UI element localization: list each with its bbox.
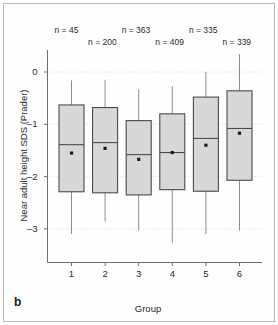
box-plot-group bbox=[59, 80, 84, 234]
mean-marker bbox=[70, 151, 73, 154]
sample-size-label: n = 339 bbox=[223, 37, 252, 47]
boxplot-series bbox=[59, 54, 252, 243]
x-tick-label: 1 bbox=[62, 268, 82, 279]
sample-size-label: n = 200 bbox=[88, 37, 117, 47]
x-tick-label: 5 bbox=[196, 268, 216, 279]
mean-marker bbox=[204, 144, 207, 147]
mean-marker bbox=[137, 158, 140, 161]
mean-marker bbox=[171, 151, 174, 154]
box-plot-group bbox=[160, 86, 185, 243]
box-rect bbox=[93, 108, 118, 193]
x-axis-title: Group bbox=[48, 303, 248, 314]
box-plot-group bbox=[126, 89, 151, 230]
plot-area: 0 –1 –2 –3 1 2 3 4 5 6 n = 45 n = 200 n … bbox=[0, 0, 278, 325]
sample-size-label: n = 409 bbox=[155, 37, 184, 47]
box-rect bbox=[227, 91, 252, 180]
box-plot-group bbox=[193, 72, 218, 234]
mean-marker bbox=[238, 132, 241, 135]
sample-size-label: n = 45 bbox=[55, 25, 79, 35]
x-tick-label: 6 bbox=[230, 268, 250, 279]
x-tick-label: 3 bbox=[129, 268, 149, 279]
panel-letter: b bbox=[14, 295, 21, 309]
box-plot-group bbox=[93, 80, 118, 222]
mean-marker bbox=[104, 147, 107, 150]
box-rect bbox=[59, 105, 84, 192]
x-tick-label: 2 bbox=[95, 268, 115, 279]
box-plot-group bbox=[227, 54, 252, 230]
x-tick-label: 4 bbox=[162, 268, 182, 279]
sample-size-label: n = 363 bbox=[122, 25, 151, 35]
sample-size-label: n = 335 bbox=[189, 25, 218, 35]
figure-panel: 0 –1 –2 –3 1 2 3 4 5 6 n = 45 n = 200 n … bbox=[0, 0, 278, 325]
y-axis-title: Near adult height SDS (Prader) bbox=[18, 71, 29, 241]
